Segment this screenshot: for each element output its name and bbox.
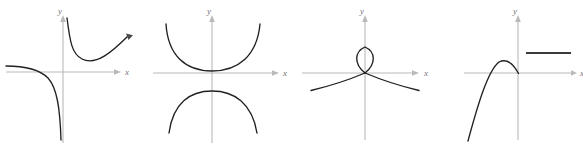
lower-branch-curve [169, 91, 257, 133]
y-axis-arrowhead [209, 15, 215, 22]
panel-a-axes [6, 15, 121, 143]
upper-branch-curve [166, 24, 260, 71]
right-branch-curve [365, 73, 419, 91]
x-axis-label: x [282, 68, 287, 78]
x-axis-arrowhead [272, 70, 279, 76]
y-axis-arrowhead [362, 15, 368, 22]
x-axis-arrowhead [114, 69, 121, 75]
panel-a-svg: x y [0, 0, 146, 146]
panel-d-graph: x y [438, 0, 583, 146]
x-axis-arrowhead [412, 70, 419, 76]
panel-d-svg: x y [438, 0, 583, 146]
left-branch-curve [311, 73, 365, 91]
y-axis-arrowhead [60, 15, 66, 22]
lower-left-branch-curve [6, 66, 61, 140]
panel-d-axes [464, 15, 577, 140]
figure-strip: x y x y [0, 0, 583, 146]
y-axis-arrowhead [515, 15, 521, 22]
panel-c-axes [302, 15, 419, 140]
y-axis-label: y [57, 6, 62, 16]
panel-b-graph: x y [146, 0, 292, 146]
y-axis-label: y [206, 6, 211, 16]
panel-c-svg: x y [292, 0, 438, 146]
panel-a-graph: x y [0, 0, 146, 146]
x-axis-label: x [579, 68, 583, 78]
panel-c-graph: x y [292, 0, 438, 146]
upper-right-branch-curve [67, 18, 128, 61]
panel-b-axes [153, 15, 279, 143]
y-axis-label: y [512, 6, 517, 16]
y-axis-label: y [359, 6, 364, 16]
x-axis-label: x [124, 67, 129, 77]
x-axis-label: x [423, 68, 428, 78]
panel-b-svg: x y [146, 0, 292, 146]
x-axis-arrowhead [571, 70, 577, 76]
